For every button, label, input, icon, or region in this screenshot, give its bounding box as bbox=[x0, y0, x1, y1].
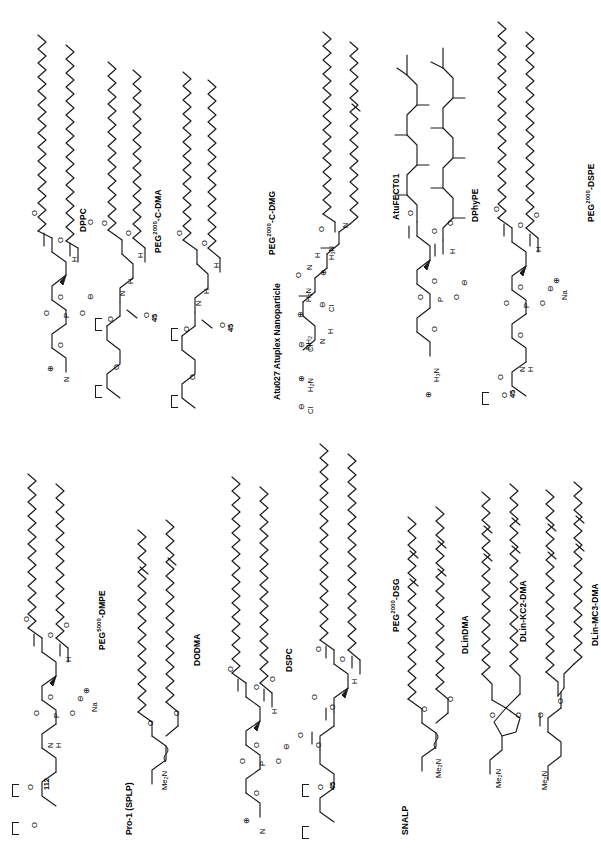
atom-label-h: H bbox=[326, 329, 335, 334]
bracket-right-arm bbox=[95, 397, 102, 398]
charge-minus: ⊖ bbox=[460, 279, 469, 286]
atom-label-h: H bbox=[136, 253, 145, 258]
atom-label-n: N bbox=[305, 265, 314, 270]
charge-plus: ⊕ bbox=[319, 269, 328, 276]
bracket-left-arm bbox=[482, 392, 489, 393]
atom-label-me2n: Me2N bbox=[540, 771, 549, 790]
atom-label-o: O bbox=[32, 710, 41, 716]
charge-minus: ⊖ bbox=[318, 301, 327, 308]
repeat-unit-count: 45 bbox=[508, 390, 517, 398]
atom-label-h: H bbox=[313, 253, 322, 258]
atom-label-o: O bbox=[556, 698, 565, 704]
caption-dlin-mc3-dma: DLin-MC3-DMA bbox=[590, 583, 600, 646]
atom-label-o: O bbox=[30, 210, 39, 216]
caption-peg2000-dspe: PEG2000-DSPE bbox=[585, 164, 596, 222]
atom-label-o: O bbox=[188, 374, 197, 380]
atom-label-o: O bbox=[488, 712, 497, 718]
atom-label-h: H bbox=[64, 657, 73, 662]
atom-label-p: P bbox=[258, 761, 267, 766]
charge-minus: ⊖ bbox=[297, 403, 306, 410]
atom-label-o: O bbox=[536, 712, 545, 718]
atom-label-h: H bbox=[212, 263, 221, 268]
counterion-sodium: Na bbox=[560, 290, 569, 300]
atom-label-o: O bbox=[30, 822, 39, 828]
bracket-left-arm bbox=[171, 340, 178, 341]
repeat-unit-count: 45 bbox=[226, 324, 235, 332]
atom-label-o: O bbox=[406, 210, 415, 216]
atom-label-o: O bbox=[316, 784, 325, 790]
caption-peg2000-c-dmg: PEG2000-C-DMG bbox=[266, 191, 277, 255]
atom-label-o: O bbox=[532, 212, 541, 218]
atom-label-o: O bbox=[56, 342, 65, 348]
atom-label-o: O bbox=[516, 332, 525, 338]
bracket-right-arm bbox=[171, 395, 178, 396]
bracket-left-arm bbox=[12, 796, 19, 797]
atom-label-h: H bbox=[534, 247, 543, 252]
atom-label-o: O bbox=[238, 758, 247, 764]
charge-plus: ⊕ bbox=[424, 391, 433, 398]
atom-label-o: O bbox=[492, 206, 501, 212]
atom-label-o: O bbox=[252, 790, 261, 796]
atom-label-nh2: NH2 bbox=[304, 336, 313, 350]
atom-label-o: O bbox=[106, 316, 115, 322]
charge-plus: ⊕ bbox=[297, 375, 306, 382]
bracket-right-arm bbox=[302, 838, 309, 839]
atom-label-o: O bbox=[430, 326, 439, 332]
atom-label-o: O bbox=[516, 284, 525, 290]
section-header-atu027: Atu027 Atuplex Nanoparticle bbox=[272, 283, 282, 400]
atom-label-o: O bbox=[496, 374, 505, 380]
bracket-left-arm bbox=[95, 318, 102, 319]
atom-label-o: O bbox=[294, 272, 303, 278]
atom-label-h: H bbox=[54, 743, 63, 748]
bracket-right-arm bbox=[171, 407, 178, 408]
atom-label-o: O bbox=[538, 300, 547, 306]
atom-label-n: N bbox=[62, 377, 71, 382]
bracket-right-arm bbox=[12, 822, 19, 823]
bracket-left-arm bbox=[482, 404, 489, 405]
caption-peg5000-dmpe: PEG5000-DMPE bbox=[96, 590, 107, 650]
atom-label-p: P bbox=[62, 313, 71, 318]
bracket-right-arm bbox=[302, 826, 309, 827]
atom-label-o: O bbox=[502, 300, 511, 306]
atom-label-h3n: H3N bbox=[304, 288, 313, 302]
atom-label-o: O bbox=[317, 226, 326, 232]
atom-label-me2n: Me2N bbox=[160, 771, 169, 790]
atom-label-h: H bbox=[270, 709, 279, 714]
charge-plus: ⊕ bbox=[46, 365, 55, 372]
atom-label-o: O bbox=[328, 704, 337, 710]
bracket-left-arm bbox=[302, 784, 309, 785]
charge-minus: ⊖ bbox=[76, 695, 85, 702]
charge-plus: ⊕ bbox=[296, 311, 305, 318]
atom-label-o: O bbox=[175, 230, 184, 236]
chemical-structures-figure: O O O H O O P O ⊖ O N ⊕ DPPC bbox=[0, 0, 601, 865]
atom-label-o: O bbox=[452, 294, 461, 300]
repeat-unit-count: 45 bbox=[328, 782, 337, 790]
atom-label-n: N bbox=[118, 291, 127, 296]
atom-label-o: O bbox=[46, 694, 55, 700]
atom-label-o: O bbox=[68, 710, 77, 716]
atom-label-n: N bbox=[318, 339, 327, 344]
atom-label-o: O bbox=[296, 732, 305, 738]
atom-label-me2n: Me2N bbox=[494, 769, 503, 788]
atom-label-h3n: H3N bbox=[327, 246, 336, 260]
atom-label-h: H bbox=[448, 249, 457, 254]
atom-label-o: O bbox=[268, 676, 277, 682]
atom-label-o: O bbox=[226, 666, 235, 672]
bracket-right-arm bbox=[95, 385, 102, 386]
counterion-chloride: Cl bbox=[306, 407, 315, 414]
atom-label-o: O bbox=[446, 220, 455, 226]
atom-label-o: O bbox=[200, 240, 209, 246]
counterion-sodium: Na bbox=[90, 702, 99, 712]
atom-label-o: O bbox=[252, 742, 261, 748]
atom-label-o: O bbox=[62, 622, 71, 628]
atom-label-h: H bbox=[526, 367, 535, 372]
atom-label-o: O bbox=[314, 646, 323, 652]
bracket-left-arm bbox=[302, 796, 309, 797]
atom-label-o: O bbox=[430, 278, 439, 284]
bracket-left-arm bbox=[12, 784, 19, 785]
atom-label-o: O bbox=[430, 228, 439, 234]
bracket-right-arm bbox=[12, 834, 19, 835]
atom-label-p: P bbox=[52, 713, 61, 718]
charge-minus: ⊖ bbox=[282, 743, 291, 750]
atom-label-o: O bbox=[56, 294, 65, 300]
